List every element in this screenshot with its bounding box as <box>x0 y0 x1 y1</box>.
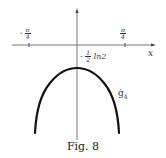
fraction: π 4 <box>25 27 31 40</box>
y-axis-arrow-icon <box>75 8 78 13</box>
curve-subscript: 4 <box>124 93 128 100</box>
fraction-denominator: 2 <box>86 57 90 63</box>
minus-sign: - <box>20 29 22 37</box>
x-axis-arrow-icon <box>151 43 156 46</box>
figure-caption: Fig. 8 <box>0 140 166 153</box>
x-axis-label: x <box>148 49 153 58</box>
fraction-denominator: 4 <box>121 34 125 40</box>
function-plot <box>0 0 166 158</box>
curve-label-g4: ġ4 <box>118 89 128 100</box>
fraction-denominator: 4 <box>26 34 30 40</box>
tick-label-pi-4: π 4 <box>120 27 126 40</box>
minus-sign: - <box>80 52 83 61</box>
fraction: 1 2 <box>85 50 91 63</box>
fraction: π 4 <box>120 27 126 40</box>
tick-label-neg-pi-4: - π 4 <box>20 27 31 40</box>
ln2-text: ln2 <box>94 52 107 61</box>
peak-value-label: - 1 2 ln2 <box>80 50 106 63</box>
